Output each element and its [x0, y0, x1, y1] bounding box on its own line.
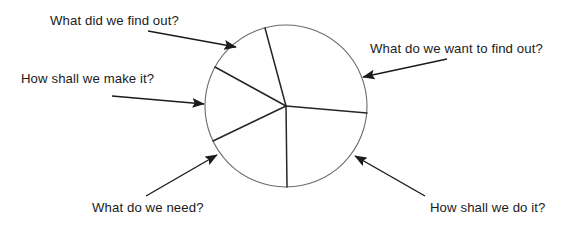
spoke-top — [265, 28, 286, 106]
arrow-make-it — [112, 96, 204, 104]
label-what-did-we-find-out: What did we find out? — [50, 13, 179, 28]
arrow-want-find-out — [363, 59, 447, 77]
wheel-diagram-graphic — [0, 0, 582, 233]
arrow-do-it — [355, 156, 425, 196]
label-what-do-we-want-to-find-out: What do we want to find out? — [370, 41, 543, 56]
diagram-canvas: What did we find out? What do we want to… — [0, 0, 582, 233]
spoke-bottom — [286, 106, 287, 187]
arrow-need — [146, 155, 217, 196]
spoke-upper-left — [215, 67, 286, 106]
spoke-right — [286, 106, 367, 113]
label-what-do-we-need: What do we need? — [92, 200, 204, 215]
label-how-shall-we-do-it: How shall we do it? — [430, 200, 546, 215]
arrow-find-out — [148, 31, 236, 47]
label-how-shall-we-make-it: How shall we make it? — [21, 71, 154, 86]
spoke-lower-left — [213, 106, 286, 141]
